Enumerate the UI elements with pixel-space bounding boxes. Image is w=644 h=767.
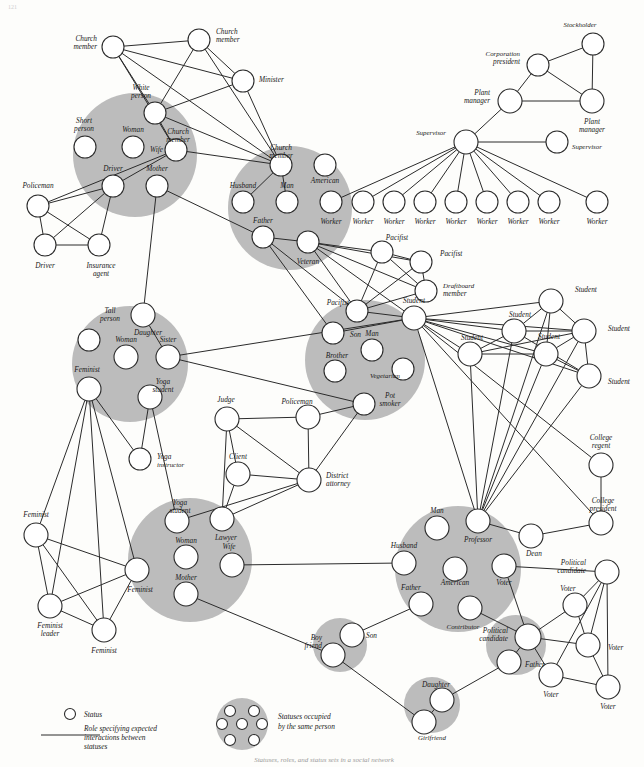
- status-node-worker[interactable]: [507, 191, 529, 213]
- status-node-driver[interactable]: [34, 234, 56, 256]
- status-node-worker[interactable]: [586, 191, 608, 213]
- role-edge: [592, 55, 593, 89]
- status-node-corporation-president[interactable]: [527, 54, 549, 76]
- status-node-college-regent[interactable]: [589, 453, 613, 477]
- status-node-man[interactable]: [425, 516, 449, 540]
- role-edge: [343, 662, 415, 715]
- status-label-worker: Worker: [507, 217, 528, 226]
- status-node-tall-person[interactable]: [78, 329, 100, 351]
- status-node-mother[interactable]: [146, 175, 168, 197]
- role-edge: [40, 400, 85, 523]
- status-node-driver[interactable]: [102, 175, 124, 197]
- status-node-judge[interactable]: [215, 407, 239, 431]
- status-node-mother[interactable]: [174, 582, 198, 606]
- status-node-woman[interactable]: [114, 345, 138, 369]
- status-node-plant-manager[interactable]: [498, 89, 522, 113]
- status-label-policeman: Policeman: [21, 181, 54, 190]
- status-node-brother[interactable]: [324, 360, 346, 382]
- status-node-feminist-leader[interactable]: [38, 594, 62, 618]
- status-node-father[interactable]: [409, 592, 433, 616]
- status-node-voter[interactable]: [576, 633, 600, 657]
- status-node-boy-friend[interactable]: [321, 643, 345, 667]
- status-label-pacifist: Pacifist: [439, 249, 463, 258]
- status-node-college-president[interactable]: [589, 511, 613, 535]
- status-node-man[interactable]: [276, 191, 298, 213]
- status-label-veteran: Veteran: [297, 257, 320, 266]
- status-node-lawyer[interactable]: [210, 507, 234, 531]
- status-node-white-person[interactable]: [144, 102, 166, 124]
- status-node-woman[interactable]: [122, 136, 144, 158]
- status-node-pacifist[interactable]: [371, 241, 393, 263]
- status-node-man[interactable]: [361, 339, 383, 361]
- role-edge: [363, 609, 410, 630]
- status-node-worker[interactable]: [352, 191, 374, 213]
- status-label-student: Student: [538, 332, 561, 341]
- status-node-daughter[interactable]: [131, 303, 155, 327]
- status-node-son[interactable]: [322, 322, 344, 344]
- status-node-stockholder[interactable]: [582, 33, 604, 55]
- status-node-feminist[interactable]: [24, 523, 48, 547]
- status-node-policeman[interactable]: [27, 195, 49, 217]
- role-edge: [40, 217, 43, 234]
- page-folio: 121: [8, 4, 17, 10]
- status-node-church-member[interactable]: [188, 29, 210, 51]
- status-node-voter[interactable]: [596, 675, 620, 699]
- status-node-short-person[interactable]: [74, 136, 96, 158]
- status-node-professor[interactable]: [466, 509, 490, 533]
- role-edge: [308, 429, 309, 468]
- status-node-pot-smoker[interactable]: [353, 393, 375, 415]
- status-node-yoga-instructor[interactable]: [129, 448, 151, 470]
- status-node-feminist[interactable]: [125, 558, 149, 582]
- status-label-voter: Voter: [600, 702, 616, 711]
- status-node-client[interactable]: [226, 462, 250, 486]
- status-node-worker[interactable]: [538, 191, 560, 213]
- status-node-church-member[interactable]: [102, 36, 124, 58]
- status-label-mother: Mother: [174, 573, 197, 582]
- status-node-minister[interactable]: [232, 70, 254, 92]
- status-node-girlfriend[interactable]: [412, 710, 436, 734]
- status-node-worker[interactable]: [383, 191, 405, 213]
- status-label-yoga-student: student: [169, 506, 191, 515]
- status-node-supervisor[interactable]: [454, 130, 478, 154]
- status-node-voter[interactable]: [492, 554, 516, 578]
- status-node-insurance-agent[interactable]: [88, 234, 110, 256]
- status-node-feminist[interactable]: [92, 618, 116, 642]
- status-node-worker[interactable]: [320, 191, 342, 213]
- status-node-student[interactable]: [502, 319, 526, 343]
- status-node-sister[interactable]: [156, 345, 180, 369]
- status-node-contributor[interactable]: [458, 596, 482, 620]
- status-node-pacifist[interactable]: [410, 251, 432, 273]
- status-node-student[interactable]: [534, 342, 558, 366]
- status-node-woman[interactable]: [174, 545, 198, 569]
- status-node-son[interactable]: [340, 623, 364, 647]
- status-node-american[interactable]: [314, 154, 336, 176]
- status-node-father[interactable]: [497, 650, 521, 674]
- status-node-supervisor[interactable]: [546, 131, 568, 153]
- status-node-wife[interactable]: [220, 553, 244, 577]
- status-node-worker[interactable]: [445, 191, 467, 213]
- status-node-worker[interactable]: [476, 191, 498, 213]
- status-node-worker[interactable]: [414, 191, 436, 213]
- status-node-pacifist[interactable]: [346, 300, 368, 322]
- status-node-student[interactable]: [458, 342, 482, 366]
- status-node-policeman[interactable]: [296, 405, 320, 429]
- status-node-student[interactable]: [572, 319, 596, 343]
- status-node-political-candidate[interactable]: [595, 560, 619, 584]
- status-node-student[interactable]: [402, 306, 426, 330]
- status-node-daughter[interactable]: [430, 688, 454, 712]
- role-edge: [483, 365, 542, 510]
- status-node-district-attorney[interactable]: [297, 468, 321, 492]
- status-node-husband[interactable]: [392, 551, 416, 575]
- status-node-husband[interactable]: [232, 191, 254, 213]
- status-node-political-candidate[interactable]: [515, 624, 541, 650]
- status-node-plant-manager[interactable]: [580, 89, 604, 113]
- status-node-dean[interactable]: [519, 524, 543, 548]
- status-node-feminist[interactable]: [77, 377, 101, 401]
- status-node-voter[interactable]: [563, 593, 587, 617]
- role-edge: [61, 611, 93, 625]
- role-edge: [458, 154, 464, 191]
- status-node-veteran[interactable]: [297, 231, 319, 253]
- status-node-student[interactable]: [577, 364, 601, 388]
- status-node-student[interactable]: [539, 289, 563, 313]
- status-node-father[interactable]: [252, 226, 274, 248]
